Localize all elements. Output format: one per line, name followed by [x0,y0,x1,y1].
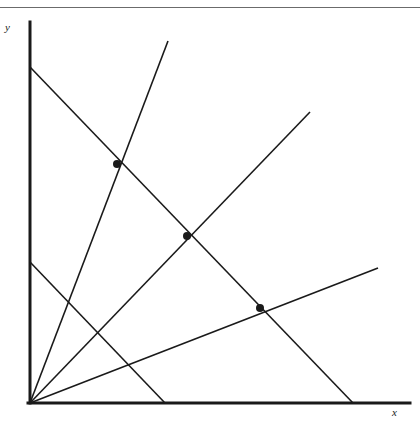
rays-group [30,41,378,403]
geometry-figure: y x [0,0,420,424]
ray-shallow-line [30,268,378,403]
intersection-point-3 [256,304,264,312]
y-axis-label: y [5,22,10,33]
ray-steep-line [30,41,168,403]
x-axis-label: x [392,407,397,418]
ray-medium-line [30,112,310,403]
intersection-point-1 [113,160,121,168]
intersection-point-2 [183,232,191,240]
plot-canvas [0,0,420,424]
